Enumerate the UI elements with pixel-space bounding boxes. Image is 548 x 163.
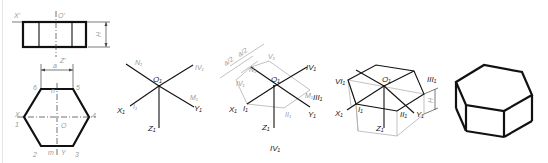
vertex-3: 3 xyxy=(75,151,79,158)
label-x1: X₁ xyxy=(228,105,237,114)
label-o-prime: O' xyxy=(58,12,65,19)
label-i1: I₁ xyxy=(358,105,363,114)
label-height: H xyxy=(95,31,102,37)
vertex-6: 6 xyxy=(33,84,37,91)
label-v1: V₁ xyxy=(268,53,276,60)
label-i1: I₁ xyxy=(243,104,248,113)
label-z1: Z₁ xyxy=(375,124,384,133)
label-width-a: a xyxy=(53,62,57,69)
vertex-1: 1 xyxy=(15,121,19,128)
label-z-prime: Z' xyxy=(59,57,66,64)
axis-x-label: X xyxy=(14,111,20,118)
axis-y-label: Y xyxy=(61,149,67,156)
label-iii1: III₁ xyxy=(313,93,323,102)
front-view: X' O' Z' H xyxy=(12,11,110,64)
finished-prism xyxy=(456,65,532,137)
label-n1: N₁ xyxy=(135,59,143,66)
label-i1: I₁ xyxy=(133,103,138,110)
label-o1: O₁ xyxy=(271,75,280,84)
dim-a-half-1: a/2 xyxy=(222,55,234,66)
axes-panel: O₁ X₁ Y₁ Z₁ N₁ M₁ I₁ IV₁ xyxy=(116,59,205,133)
dim-a-half-2: a/2 xyxy=(236,46,248,57)
label-y1: Y₁ xyxy=(416,110,424,119)
vertex-5: 5 xyxy=(76,84,80,91)
label-height: H xyxy=(427,97,434,103)
height-panel: O₁ X₁ Y₁ Z₁ I₁ II₁ III₁ VI₁ H xyxy=(334,65,438,136)
label-z1: Z₁ xyxy=(261,123,270,132)
vertex-2: 2 xyxy=(32,151,37,158)
label-n1: N₁ xyxy=(249,66,257,73)
hexagonal-prism-isometric-construction: X' O' Z' H a 6 5 4 1 2 3 X Y O n m xyxy=(0,0,548,163)
label-vi1: VI₁ xyxy=(335,77,346,86)
label-ii1: II₁ xyxy=(285,111,292,118)
label-iii1: III₁ xyxy=(427,75,437,84)
drawing-canvas: X' O' Z' H a 6 5 4 1 2 3 X Y O n m xyxy=(0,0,548,163)
label-z1: Z₁ xyxy=(147,124,156,133)
label-iv1-left: IV₁ xyxy=(236,80,246,87)
construction-caption: IV₁ xyxy=(270,144,281,153)
label-m: m xyxy=(48,149,54,156)
top-view: a 6 5 4 1 2 3 X Y O n m xyxy=(14,62,96,158)
label-y1: Y₁ xyxy=(194,104,202,113)
label-iv1: IV₁ xyxy=(306,63,317,72)
construction-panel: a/2 a/2 O₁ X₁ Y₁ Z₁ I₁ II₁ III₁ IV₁ IV₁ … xyxy=(220,44,323,153)
label-ii1: II₁ xyxy=(400,110,407,119)
vertex-4: 4 xyxy=(92,112,96,119)
label-o1: O₁ xyxy=(382,75,391,84)
label-y1: Y₁ xyxy=(308,110,316,119)
label-x-prime: X' xyxy=(13,12,21,19)
label-m1: M₁ xyxy=(190,94,199,101)
label-n: n xyxy=(51,87,55,94)
label-x1: X₁ xyxy=(334,109,343,118)
label-m1: M₁ xyxy=(305,92,314,99)
label-iv1: IV₁ xyxy=(195,64,205,71)
label-x1: X₁ xyxy=(116,106,125,115)
origin-label: O xyxy=(61,122,67,129)
label-o1: O₁ xyxy=(153,75,162,84)
